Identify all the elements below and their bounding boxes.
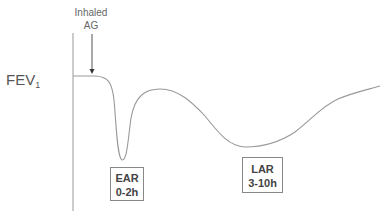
lar-phase-box: LAR 3-10h: [242, 157, 283, 193]
fev1-axis-label: FEV1: [6, 71, 40, 90]
arrow-down-icon: [90, 34, 95, 74]
inhaled-label: Inhaled: [68, 6, 114, 19]
ear-phase-box: EAR 0-2h: [110, 167, 144, 201]
fev-subscript: 1: [35, 80, 40, 90]
fev1-curve: [73, 76, 380, 160]
fev1-curve-diagram: [0, 0, 392, 217]
ear-name: EAR: [111, 171, 143, 185]
lar-name: LAR: [243, 162, 282, 176]
ag-label: AG: [68, 19, 114, 32]
lar-time: 3-10h: [243, 176, 282, 190]
inhaled-ag-label: Inhaled AG: [68, 6, 114, 32]
ear-time: 0-2h: [111, 185, 143, 199]
fev-text: FEV: [6, 71, 35, 88]
